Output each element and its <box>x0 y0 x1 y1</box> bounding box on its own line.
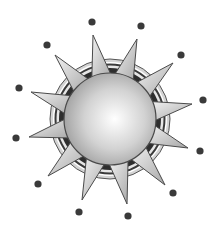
dot <box>34 180 41 187</box>
dot <box>137 22 144 29</box>
sun-spike <box>109 159 128 204</box>
dot <box>15 84 22 91</box>
dot <box>199 96 206 103</box>
sun-spike <box>150 102 192 122</box>
dot <box>124 212 131 219</box>
sun-illustration <box>0 0 220 236</box>
dot <box>196 147 203 154</box>
dot <box>177 51 184 58</box>
sun-sphere <box>64 73 156 165</box>
dot <box>43 41 50 48</box>
dot <box>169 189 176 196</box>
dot <box>88 18 95 25</box>
dot <box>75 208 82 215</box>
sun-spike <box>92 35 111 79</box>
dot <box>12 134 19 141</box>
